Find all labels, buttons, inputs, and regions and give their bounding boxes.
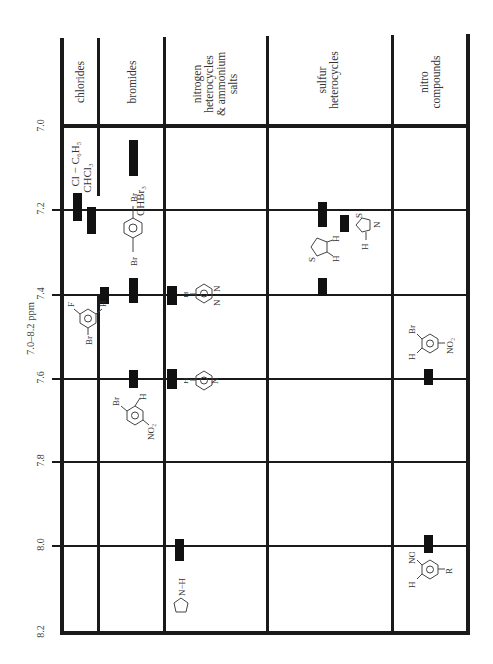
header-sulfur-heterocycles: sulfur heterocycles — [316, 35, 340, 125]
header-nitro-compounds: nitro compounds — [418, 37, 442, 127]
svg-text:H: H — [184, 291, 190, 298]
tick-label-8.0: 8.0 — [35, 538, 46, 551]
svg-text:H: H — [184, 377, 190, 384]
bromonitrobenzene-structure-nitro: Br H NO₂ — [405, 320, 455, 370]
svg-text:H: H — [138, 393, 148, 400]
svg-text:H: H — [407, 353, 417, 360]
gridline-7.2 — [52, 209, 470, 211]
label-chlorobenzene: Cl − C₆H₅ — [69, 141, 81, 186]
gridline-7.6 — [52, 378, 470, 380]
pyridazine-structure: H N N — [184, 270, 224, 320]
br-label: Br — [129, 193, 139, 202]
svg-text:Br: Br — [111, 397, 121, 406]
svg-text:N−H: N−H — [177, 577, 187, 596]
svg-text:H: H — [331, 255, 341, 262]
dibromobenzene-structure: Br Br — [118, 186, 148, 276]
tick-label-8.2: 8.2 — [35, 625, 46, 638]
svg-text:NO₂: NO₂ — [445, 338, 455, 354]
column-divider-1 — [97, 38, 100, 196]
bar-chlorobenzene — [73, 193, 82, 221]
bar-pyridine — [167, 369, 177, 389]
svg-text:NO₂: NO₂ — [146, 424, 156, 440]
bromonitrobenzene-structure-bromides: Br H NO₂ — [110, 392, 160, 442]
bar-chloroform — [87, 207, 96, 234]
thiazole-structure: S N H — [350, 210, 390, 260]
svg-text:H: H — [407, 581, 417, 588]
svg-text:N: N — [372, 221, 382, 228]
header-divider — [60, 124, 470, 128]
label-chloroform: CHCl₃ — [81, 163, 93, 193]
axis-label: 7.0–8.2 ppm — [25, 302, 36, 355]
tick-label-7.2: 7.2 — [35, 202, 46, 215]
svg-text:NO₂: NO₂ — [407, 552, 417, 564]
svg-text:S: S — [354, 213, 364, 218]
bar-thiophene-1 — [318, 202, 327, 227]
bar-dibromobenzene — [129, 278, 138, 303]
svg-text:H: H — [331, 235, 341, 242]
gridline-7.8 — [52, 461, 470, 463]
bar-bromonitrobenzene-bromides — [129, 370, 138, 388]
column-divider-1b — [97, 296, 100, 635]
svg-text:N: N — [210, 377, 220, 384]
svg-text:N: N — [212, 299, 222, 306]
svg-text:F: F — [68, 302, 76, 307]
bar-pyrrole — [175, 539, 184, 561]
tick-label-7.0: 7.0 — [35, 119, 46, 132]
svg-text:S: S — [307, 257, 317, 262]
bar-nitroarene-r — [424, 535, 433, 553]
header-chlorides: chlorides — [74, 42, 86, 122]
bar-bromoform — [129, 140, 138, 176]
header-bromides: bromides — [126, 42, 138, 122]
header-nitrogen-heterocycles: nitrogen heterocycles & ammonium salts — [191, 39, 239, 129]
br-label: Br — [129, 257, 139, 266]
gridline-7.4 — [52, 294, 470, 296]
bottom-border — [60, 631, 470, 635]
pyrrole-structure: N−H — [168, 570, 198, 630]
svg-text:H: H — [360, 243, 370, 250]
gridline-8.0 — [52, 545, 470, 547]
bromofluorobenzene-structure: F H Br — [68, 295, 108, 345]
bar-pyridazine — [167, 286, 177, 305]
tick-label-7.4: 7.4 — [35, 287, 46, 300]
svg-text:Br: Br — [84, 336, 94, 345]
thiophene-structure: S H H — [305, 228, 345, 278]
tick-label-7.8: 7.8 — [35, 454, 46, 467]
tick-label-7.6: 7.6 — [35, 371, 46, 384]
svg-text:N: N — [212, 285, 222, 292]
svg-text:H: H — [98, 300, 108, 307]
bar-bromonitrobenzene-nitro — [424, 369, 433, 385]
svg-text:Br: Br — [407, 325, 417, 334]
nitroarene-r-structure: NO₂ H R — [405, 552, 455, 602]
svg-text:R: R — [444, 568, 454, 574]
bar-thiophene-2 — [318, 278, 327, 296]
pyridine-structure: H N — [184, 360, 224, 400]
